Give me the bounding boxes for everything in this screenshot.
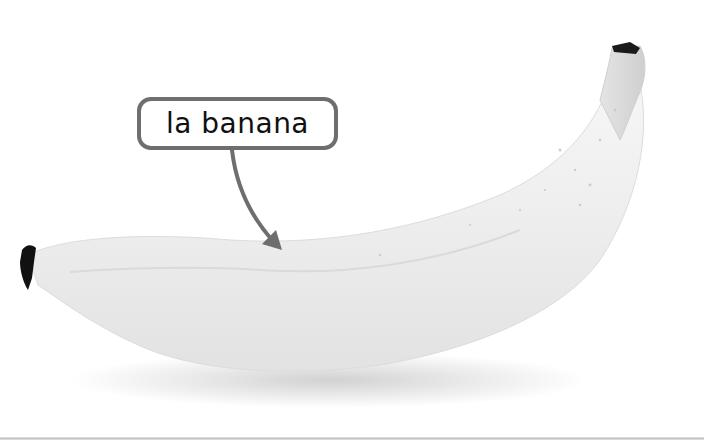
image-canvas: la banana — [0, 0, 704, 445]
banana-stem-tip — [612, 42, 640, 54]
banana-illustration — [0, 0, 704, 445]
bottom-divider — [0, 437, 704, 440]
callout-label: la banana — [166, 110, 309, 138]
callout-box: la banana — [137, 97, 338, 150]
callout-arrow-line — [232, 150, 272, 240]
